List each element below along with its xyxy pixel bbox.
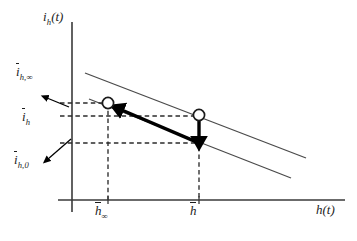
y-label-i-h-zero: ih,0 <box>14 152 29 169</box>
y-axis-label: ih(t) <box>43 10 63 26</box>
y-label-i-h-infinity-sub: h,∞ <box>20 72 33 82</box>
y-label-i-h-infinity-base: i <box>16 64 20 78</box>
y-label-i-h-zero-sub: h,0 <box>18 160 29 170</box>
x-axis-label: h(t) <box>316 203 335 216</box>
x-axis-label-arg: (t) <box>323 202 335 217</box>
equilibrium-node-circle <box>102 97 113 108</box>
y-label-i-h-infinity: ih,∞ <box>16 64 33 81</box>
y-label-i-h-bar: ih <box>22 109 30 126</box>
phase-diagram-figure: ih(t) h(t) ih,∞ ih ih,0 h∞ h <box>0 0 357 241</box>
x-label-h-infinity: h∞ <box>95 203 108 220</box>
y-label-i-h-bar-sub: h <box>26 117 31 127</box>
initial-node-circle <box>193 109 204 120</box>
pointer-to-i-zero-label <box>48 139 71 159</box>
pointer-to-i-infinity-label <box>47 98 69 107</box>
x-label-h-infinity-base: h <box>95 203 102 217</box>
x-label-h-bar-base: h <box>190 203 197 217</box>
y-axis-label-arg: (t) <box>51 9 63 24</box>
x-label-h-bar: h <box>190 203 197 220</box>
x-label-h-infinity-sub: ∞ <box>102 211 108 221</box>
y-label-i-h-bar-base: i <box>22 109 26 123</box>
diagram-canvas <box>0 0 357 241</box>
y-label-i-h-zero-base: i <box>14 152 18 166</box>
diagonal-convergence-arrow <box>120 109 198 142</box>
